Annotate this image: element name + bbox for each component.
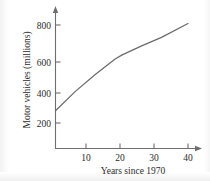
x-tick-label-40: 40: [183, 153, 193, 163]
x-axis-title: Years since 1970: [101, 166, 166, 176]
x-tick-label-30: 30: [149, 153, 159, 163]
line-chart-plot: 800 600 400 200 10 20 30 40 Years since …: [0, 0, 210, 181]
x-axis-arrow-icon: [195, 146, 202, 151]
y-tick-label-200: 200: [37, 119, 52, 129]
y-axis-arrow-icon: [53, 6, 58, 13]
x-axis-group: [55, 144, 202, 152]
y-axis-group: [53, 6, 61, 148]
y-tick-label-800: 800: [37, 21, 52, 31]
y-tick-label-600: 600: [37, 58, 52, 68]
y-axis-title: Motor vehicles (millions): [22, 31, 33, 128]
x-tick-label-10: 10: [81, 153, 91, 163]
chart-figure: 800 600 400 200 10 20 30 40 Years since …: [0, 0, 210, 181]
data-series-line: [56, 23, 189, 110]
y-tick-label-400: 400: [37, 89, 52, 99]
x-tick-label-20: 20: [115, 153, 125, 163]
